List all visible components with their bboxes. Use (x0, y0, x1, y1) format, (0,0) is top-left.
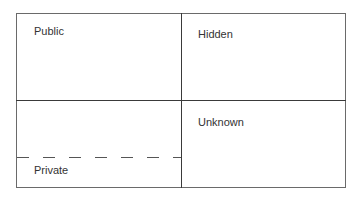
quadrant-label-private: Private (34, 164, 68, 176)
horizontal-divider (16, 100, 346, 101)
dashed-divider (17, 156, 181, 159)
quadrant-label-hidden: Hidden (198, 28, 233, 40)
quadrant-label-public: Public (34, 25, 64, 37)
quadrant-label-unknown: Unknown (198, 116, 244, 128)
